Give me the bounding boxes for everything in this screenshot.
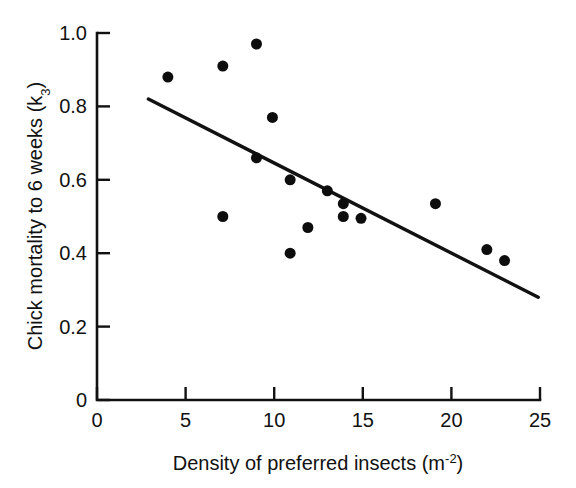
data-point — [481, 244, 492, 255]
x-tick-label: 5 — [180, 409, 191, 431]
plot-canvas: 00.20.40.60.81.0 0510152025 Density of p… — [0, 0, 576, 488]
x-tick-labels: 0510152025 — [91, 409, 551, 431]
x-axis-title: Density of preferred insects (m-2) — [173, 451, 464, 475]
data-point — [285, 174, 296, 185]
y-tick-label: 0.8 — [59, 95, 87, 117]
y-tick-labels: 00.20.40.60.81.0 — [59, 22, 87, 411]
data-point — [338, 198, 349, 209]
y-tick-label: 0.6 — [59, 169, 87, 191]
y-tick-label: 1.0 — [59, 22, 87, 44]
data-point — [217, 211, 228, 222]
x-tick-label: 10 — [263, 409, 285, 431]
x-tick-label: 25 — [529, 409, 551, 431]
data-point — [285, 248, 296, 259]
data-point — [356, 213, 367, 224]
y-tick-label: 0.2 — [59, 316, 87, 338]
x-tick-label: 0 — [91, 409, 102, 431]
data-point — [338, 211, 349, 222]
data-points — [162, 39, 510, 267]
y-tick-label: 0 — [76, 389, 87, 411]
tick-marks — [97, 33, 540, 400]
data-point — [162, 72, 173, 83]
data-point — [251, 152, 262, 163]
data-point — [302, 222, 313, 233]
data-point — [251, 39, 262, 50]
y-tick-label: 0.4 — [59, 242, 87, 264]
axes — [97, 33, 540, 400]
scatter-plot-figure: 00.20.40.60.81.0 0510152025 Density of p… — [0, 0, 576, 488]
data-point — [322, 185, 333, 196]
data-point — [430, 198, 441, 209]
regression-line — [148, 99, 538, 297]
axis-lines — [97, 33, 540, 400]
data-point — [499, 255, 510, 266]
trend-line — [148, 99, 538, 297]
data-point — [217, 61, 228, 72]
x-tick-label: 15 — [352, 409, 374, 431]
y-axis-title: Chick mortality to 6 weeks (k3) — [24, 82, 53, 350]
data-point — [267, 112, 278, 123]
x-tick-label: 20 — [440, 409, 462, 431]
